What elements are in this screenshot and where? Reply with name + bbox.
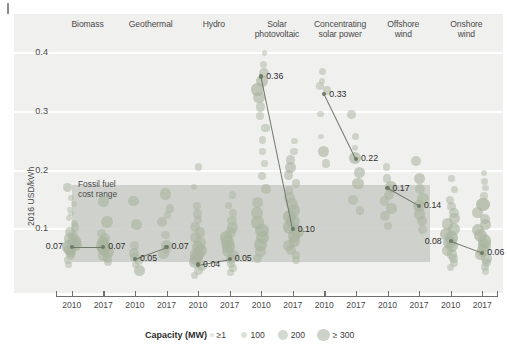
x-tick-mark — [103, 291, 104, 297]
x-tick-mark — [388, 291, 389, 297]
legend-title: Capacity (MW) — [145, 330, 207, 340]
fossil-fuel-note-line1: Fossil fuel — [78, 179, 117, 189]
value-label-biomass-2010: 0.07 — [46, 241, 63, 251]
x-tick-mark — [198, 291, 199, 297]
x-tick-label-9: 2017 — [341, 300, 371, 310]
data-point — [318, 134, 324, 140]
data-point — [191, 184, 197, 190]
legend-label-1: 100 — [250, 330, 264, 340]
data-point — [322, 159, 330, 167]
y-axis-title: 2016 USD/kWh — [26, 167, 36, 226]
x-tick-label-7: 2017 — [278, 300, 308, 310]
data-point — [347, 110, 356, 119]
value-label-concentrating-solar-power-2017: 0.22 — [361, 153, 378, 163]
category-label-line: Solar — [241, 19, 312, 29]
x-tick-label-10: 2010 — [373, 300, 403, 310]
legend-marker-3 — [317, 329, 330, 342]
x-axis-right-cap — [497, 291, 498, 297]
category-label-line: solar power — [305, 29, 376, 39]
corner-crop-mark — [7, 3, 9, 14]
data-point — [259, 148, 266, 155]
category-label-line: photovoltaic — [241, 29, 312, 39]
weighted-average-marker — [354, 157, 358, 161]
value-label-onshore-wind-2010: 0.08 — [425, 236, 442, 246]
data-point — [134, 265, 145, 276]
data-point — [411, 156, 421, 166]
data-point — [227, 269, 234, 276]
data-point — [482, 268, 489, 275]
data-point — [160, 188, 171, 199]
category-label-line: Onshore — [431, 19, 502, 29]
data-point — [261, 184, 271, 194]
category-label-onshore-wind: Onshorewind — [431, 19, 502, 39]
value-label-hydro-2017: 0.05 — [235, 253, 252, 263]
category-label-solar-photovoltaic: Solarphotovoltaic — [241, 19, 312, 39]
x-tick-label-13: 2017 — [467, 300, 497, 310]
value-label-solar-photovoltaic-2010: 0.36 — [266, 71, 283, 81]
data-point — [252, 197, 263, 208]
data-point — [354, 167, 365, 178]
data-point — [292, 179, 300, 187]
x-tick-mark — [482, 291, 483, 297]
weighted-average-marker — [259, 74, 263, 78]
category-label-line: Concentrating — [305, 19, 376, 29]
data-point — [291, 138, 297, 144]
renewable-cost-scatter-figure: BiomassGeothermalHydroSolarphotovoltaicC… — [0, 0, 507, 353]
data-point — [261, 160, 267, 166]
fossil-fuel-note-line2: cost range — [78, 189, 117, 199]
x-tick-mark — [356, 291, 357, 297]
fossil-fuel-note: Fossil fuel cost range — [78, 179, 117, 199]
category-label-line: Biomass — [52, 19, 123, 29]
weighted-average-connector — [72, 247, 104, 248]
value-label-hydro-2010: 0.04 — [203, 259, 220, 269]
x-tick-mark — [72, 291, 73, 297]
x-tick-label-5: 2017 — [215, 300, 245, 310]
data-point — [482, 185, 489, 192]
value-label-biomass-2017: 0.07 — [108, 241, 125, 251]
value-label-offshore-wind-2017: 0.14 — [424, 200, 441, 210]
x-tick-mark — [167, 291, 168, 297]
data-point — [262, 50, 268, 56]
x-tick-mark — [451, 291, 452, 297]
x-tick-mark — [293, 291, 294, 297]
data-point — [418, 225, 427, 234]
legend-marker-0 — [210, 333, 213, 336]
weighted-average-marker — [70, 245, 74, 249]
data-point — [191, 272, 198, 279]
data-point — [225, 202, 232, 209]
category-label-line: wind — [368, 29, 439, 39]
x-tick-label-2: 2010 — [120, 300, 150, 310]
category-label-line: Geothermal — [115, 19, 186, 29]
data-point — [352, 178, 364, 190]
data-point — [104, 258, 112, 266]
x-tick-label-11: 2017 — [404, 300, 434, 310]
data-point — [63, 183, 72, 192]
category-label-line: Hydro — [178, 19, 249, 29]
data-point — [383, 163, 390, 170]
data-point — [157, 217, 167, 227]
x-tick-label-4: 2010 — [183, 300, 213, 310]
data-point — [128, 196, 139, 207]
weighted-average-marker — [385, 186, 389, 190]
y-tick-0.4: 0.4 — [22, 47, 48, 57]
data-point — [290, 148, 297, 155]
data-point — [66, 215, 72, 221]
x-axis-left-cap — [56, 291, 57, 297]
x-tick-mark — [419, 291, 420, 297]
x-tick-label-12: 2010 — [436, 300, 466, 310]
weighted-average-marker — [133, 257, 137, 261]
legend-label-2: 200 — [291, 330, 305, 340]
x-tick-label-8: 2010 — [309, 300, 339, 310]
data-point — [195, 163, 202, 170]
category-label-line: Offshore — [368, 19, 439, 29]
value-label-concentrating-solar-power-2010: 0.33 — [329, 89, 346, 99]
data-point — [481, 170, 487, 176]
x-tick-mark — [261, 291, 262, 297]
data-point — [98, 196, 109, 207]
data-point — [253, 254, 262, 263]
weighted-average-marker — [164, 245, 168, 249]
data-point — [256, 102, 265, 111]
data-point — [65, 261, 71, 267]
category-label-concentrating-solar-power: Concentratingsolar power — [305, 19, 376, 39]
value-label-geothermal-2010: 0.05 — [140, 253, 157, 263]
